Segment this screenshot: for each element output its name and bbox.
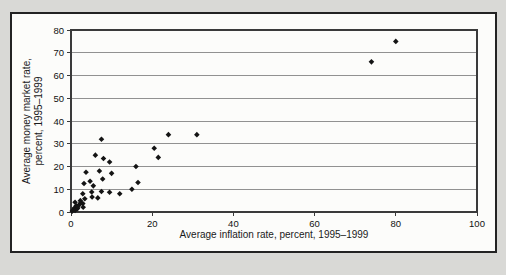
y-tick-label: 70 [53, 47, 64, 58]
x-tick-label: 100 [469, 218, 485, 229]
data-point [81, 181, 87, 187]
data-point [166, 132, 172, 138]
data-point [151, 146, 157, 152]
data-point [155, 155, 161, 161]
data-point [129, 186, 135, 192]
x-tick-label: 20 [147, 218, 158, 229]
x-tick-label: 40 [228, 218, 239, 229]
data-point [89, 189, 95, 195]
data-point [194, 132, 200, 138]
data-point [107, 189, 113, 195]
data-point [109, 171, 115, 177]
figure-background: Average money market rate, percent, 1995… [0, 0, 506, 275]
data-point [101, 156, 107, 162]
data-point [91, 183, 97, 189]
data-point [83, 169, 89, 175]
x-axis-title: Average inflation rate, percent, 1995–19… [180, 229, 369, 240]
data-point [117, 191, 123, 197]
y-tick-label: 60 [53, 70, 64, 81]
data-point [100, 176, 106, 182]
x-tick-label: 80 [391, 218, 402, 229]
data-point [393, 39, 399, 45]
x-tick-label: 0 [68, 218, 73, 229]
x-tick-label: 60 [309, 218, 320, 229]
data-point [97, 168, 103, 174]
data-point [95, 195, 101, 201]
y-tick-label: 40 [53, 116, 64, 127]
y-tick-label: 20 [53, 161, 64, 172]
y-tick-label: 0 [59, 207, 64, 218]
y-tick-label: 50 [53, 93, 64, 104]
data-point [369, 59, 375, 65]
y-tick-label: 30 [53, 138, 64, 149]
data-point [99, 136, 105, 142]
data-point [133, 164, 139, 170]
data-point [89, 194, 95, 200]
data-point [107, 159, 113, 165]
data-point [135, 180, 141, 186]
data-point [80, 191, 86, 197]
y-tick-label: 10 [53, 184, 64, 195]
y-tick-label: 80 [53, 25, 64, 36]
data-point [87, 178, 93, 184]
data-point [93, 152, 99, 158]
